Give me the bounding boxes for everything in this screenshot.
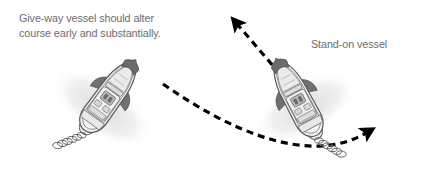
give-way-caption-line-1: Give-way vessel should alter <box>19 11 161 26</box>
stand-on-caption: Stand-on vessel <box>311 37 387 52</box>
diagram-canvas: Give-way vessel should alter course earl… <box>0 0 421 174</box>
give-way-caption-line-2: course early and substantially. <box>19 26 161 41</box>
give-way-caption: Give-way vessel should alter course earl… <box>19 11 161 41</box>
